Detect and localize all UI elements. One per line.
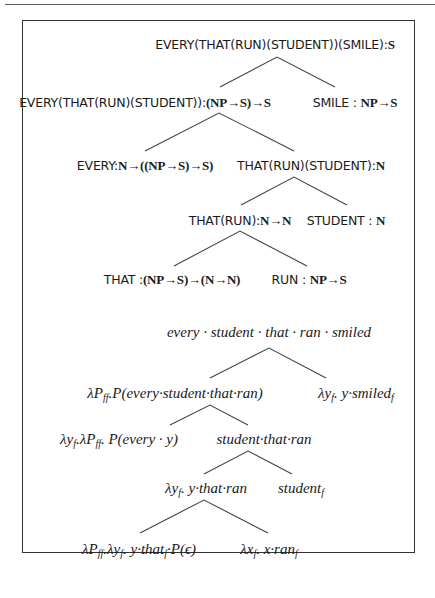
- node-type: NP→S: [361, 95, 398, 110]
- lower-l3-left-node: λyf. y·that·ran: [165, 481, 247, 498]
- upper-root-node: EVERY(THAT(RUN)(STUDENT))(SMILE):S: [155, 38, 394, 52]
- node-term: THAT :: [104, 272, 143, 287]
- lower-l2-left-node: λyf.λPff. P(every · y): [60, 432, 178, 449]
- node-term: STUDENT :: [307, 213, 376, 228]
- lambda-term: λP: [82, 541, 98, 557]
- lower-l2-right-node: student·that·ran: [216, 432, 311, 447]
- lambda-body: . P(every · y): [101, 431, 178, 447]
- lower-l3-right-node: studentf: [278, 481, 324, 498]
- node-term: EVERY:: [77, 158, 118, 173]
- node-term: EVERY(THAT(RUN)(STUDENT))(SMILE):: [155, 37, 387, 52]
- node-term: EVERY(THAT(RUN)(STUDENT)):: [19, 95, 206, 110]
- lambda-term: λy: [165, 480, 178, 496]
- lambda-term: λy: [60, 431, 73, 447]
- node-term: THAT(RUN):: [189, 213, 260, 228]
- upper-l1-right-node: SMILE : NP→S: [313, 96, 398, 110]
- lower-l4-right-node: λxf. x·ranf: [240, 542, 297, 559]
- node-type: N→((NP→S)→S): [118, 158, 213, 173]
- tree-branches: [0, 0, 435, 598]
- lambda-term: λP: [87, 385, 103, 401]
- lower-l1-right-node: λyf. y·smiledf: [318, 386, 394, 403]
- lower-root-node: every · student · that · ran · smiled: [167, 325, 371, 340]
- lower-l1-left-node: λPff.P(every·student·that·ran): [87, 386, 262, 403]
- lambda-body: . y·that·ran: [181, 480, 247, 496]
- lower-l4-left-node: λPff.λyf. y·thatf·P(ϵ): [82, 542, 196, 559]
- subscript: f: [321, 487, 324, 498]
- subscript: f: [295, 548, 298, 559]
- lambda-body: ·P(ϵ): [167, 541, 196, 557]
- lambda-term: .λP: [76, 431, 95, 447]
- lambda-body: student: [278, 480, 321, 496]
- node-type: NP→S: [310, 272, 347, 287]
- upper-l2-left-node: EVERY:N→((NP→S)→S): [77, 159, 213, 173]
- upper-l2-right-node: THAT(RUN)(STUDENT):N: [237, 159, 385, 173]
- lambda-body: . y·smiled: [334, 385, 391, 401]
- node-type: N: [376, 158, 385, 173]
- lambda-body: .P(every·student·that·ran): [109, 385, 263, 401]
- lambda-term: λy: [318, 385, 331, 401]
- lambda-body: . x·ran: [256, 541, 295, 557]
- node-type: (NP→S)→S: [206, 95, 271, 110]
- upper-l4-left-node: THAT :(NP→S)→(N→N): [104, 273, 241, 287]
- node-term: RUN :: [272, 272, 310, 287]
- lambda-term: λx: [240, 541, 253, 557]
- upper-l4-right-node: RUN : NP→S: [272, 273, 347, 287]
- node-type: S: [388, 37, 395, 52]
- upper-l3-right-node: STUDENT : N: [307, 214, 386, 228]
- lambda-term: .λy: [103, 541, 120, 557]
- node-term: SMILE :: [313, 95, 361, 110]
- upper-l1-left-node: EVERY(THAT(RUN)(STUDENT)):(NP→S)→S: [19, 96, 271, 110]
- node-term: THAT(RUN)(STUDENT):: [237, 158, 376, 173]
- subscript: f: [391, 392, 394, 403]
- node-type: N: [376, 213, 385, 228]
- node-type: (NP→S)→(N→N): [143, 272, 240, 287]
- upper-l3-left-node: THAT(RUN):N→N: [189, 214, 292, 228]
- lambda-body: . y·that: [123, 541, 164, 557]
- node-type: N→N: [260, 213, 291, 228]
